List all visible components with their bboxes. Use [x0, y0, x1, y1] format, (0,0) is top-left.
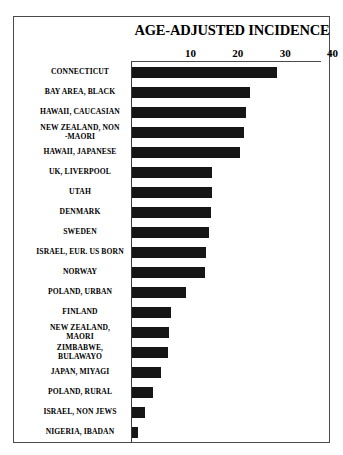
bar — [132, 367, 161, 378]
bar-row — [132, 67, 277, 78]
category-label: SWEDEN — [28, 228, 132, 236]
x-tick-40: 40 — [327, 47, 338, 59]
category-label: ZIMBABWE,BULAWAYO — [28, 344, 132, 361]
category-label-line: ISRAEL, EUR. US BORN — [28, 248, 132, 256]
bar-row — [132, 427, 138, 438]
category-label: NIGERIA, IBADAN — [28, 428, 132, 436]
plot-area — [131, 48, 328, 443]
bar — [132, 307, 171, 318]
bar — [132, 167, 212, 178]
bar — [132, 87, 250, 98]
bar — [132, 327, 169, 338]
bar-row — [132, 367, 161, 378]
category-label-line: POLAND, RURAL — [28, 388, 132, 396]
bar-row — [132, 107, 246, 118]
bar-row — [132, 167, 212, 178]
bar-row — [132, 347, 168, 358]
category-label: CONNECTICUT — [28, 68, 132, 76]
category-label-line: HAWAII, JAPANESE — [28, 148, 132, 156]
category-label: POLAND, RURAL — [28, 388, 132, 396]
category-label-line: CONNECTICUT — [28, 68, 132, 76]
bar-row — [132, 267, 205, 278]
bar-row — [132, 187, 212, 198]
category-label: BAY AREA, BLACK — [28, 88, 132, 96]
category-label-line: UK, LIVERPOOL — [28, 168, 132, 176]
bar — [132, 247, 206, 258]
category-label-line: NIGERIA, IBADAN — [28, 428, 132, 436]
bar — [132, 147, 240, 158]
bar — [132, 67, 277, 78]
category-label: UK, LIVERPOOL — [28, 168, 132, 176]
category-label: HAWAII, JAPANESE — [28, 148, 132, 156]
category-label-line: FINLAND — [28, 308, 132, 316]
category-label-line: HAWAII, CAUCASIAN — [28, 108, 132, 116]
category-label: FINLAND — [28, 308, 132, 316]
category-label-line: DENMARK — [28, 208, 132, 216]
bar-row — [132, 227, 209, 238]
category-label-line: POLAND, URBAN — [28, 288, 132, 296]
category-label: NORWAY — [28, 268, 132, 276]
category-label: ISRAEL, NON JEWS — [28, 408, 132, 416]
category-label-line: BAY AREA, BLACK — [28, 88, 132, 96]
category-label: JAPAN, MIYAGI — [28, 368, 132, 376]
category-label-line: JAPAN, MIYAGI — [28, 368, 132, 376]
bar — [132, 107, 246, 118]
bar-row — [132, 307, 171, 318]
category-label-line: BULAWAYO — [28, 353, 132, 361]
bar-row — [132, 287, 186, 298]
category-label-line: UTAH — [28, 188, 132, 196]
bar-row — [132, 407, 145, 418]
category-label-line: -MAORI — [28, 133, 132, 141]
bar-row — [132, 327, 169, 338]
bar-row — [132, 127, 244, 138]
bar — [132, 347, 168, 358]
bar — [132, 287, 186, 298]
bar — [132, 187, 212, 198]
category-label-line: SWEDEN — [28, 228, 132, 236]
category-label: POLAND, URBAN — [28, 288, 132, 296]
category-label: ISRAEL, EUR. US BORN — [28, 248, 132, 256]
category-label: HAWAII, CAUCASIAN — [28, 108, 132, 116]
category-axis-labels: CONNECTICUTBAY AREA, BLACKHAWAII, CAUCAS… — [28, 48, 132, 443]
bar — [132, 407, 145, 418]
bar — [132, 267, 205, 278]
category-label: NEW ZEALAND, NON-MAORI — [28, 124, 132, 141]
bar — [132, 127, 244, 138]
category-label: DENMARK — [28, 208, 132, 216]
category-label-line: ISRAEL, NON JEWS — [28, 408, 132, 416]
chart-title: AGE-ADJUSTED INCIDENCE — [134, 22, 330, 39]
category-label: UTAH — [28, 188, 132, 196]
bar-row — [132, 147, 240, 158]
bar-row — [132, 387, 153, 398]
bar-row — [132, 207, 211, 218]
bar-row — [132, 87, 250, 98]
category-label-line: NORWAY — [28, 268, 132, 276]
category-label-line: MAORI — [28, 333, 132, 341]
bar — [132, 227, 209, 238]
bar — [132, 207, 211, 218]
bar — [132, 387, 153, 398]
chart-figure-frame: AGE-ADJUSTED INCIDENCE 10203040 CONNECTI… — [13, 16, 330, 443]
bar-row — [132, 247, 206, 258]
bar — [132, 427, 138, 438]
category-label: NEW ZEALAND,MAORI — [28, 324, 132, 341]
